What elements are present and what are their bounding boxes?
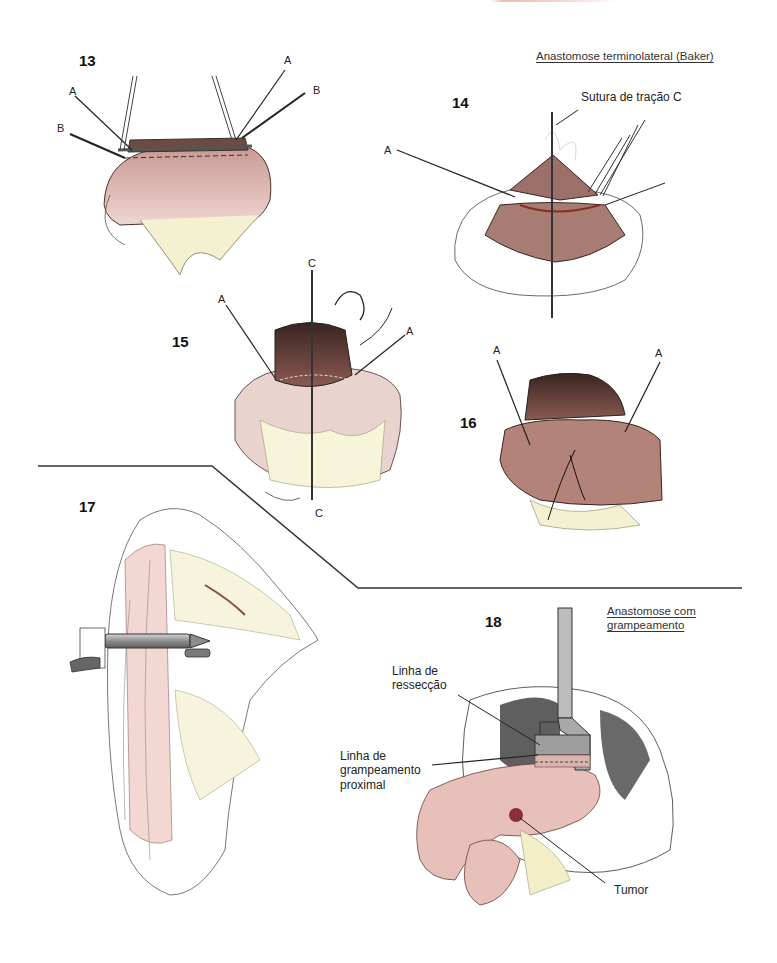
fig13-label-b-left: B [57, 123, 64, 134]
figure-number-13: 13 [79, 52, 96, 69]
figure-14-art [397, 110, 665, 318]
fig13-label-a-right: A [284, 55, 291, 66]
fig18-staple-line1: Linha de [340, 749, 421, 763]
figure-18-art [417, 608, 674, 905]
figure-15-art [226, 270, 405, 500]
fig15-label-c-bottom: C [315, 508, 323, 519]
fig18-callout-resection-line: Linha de ressecção [392, 664, 447, 693]
fig15-label-c-top: C [308, 258, 316, 269]
figure-number-14: 14 [452, 94, 469, 111]
section-title-stapled-line1: Anastomose com [607, 604, 696, 618]
section-title-baker: Anastomose terminolateral (Baker) [536, 49, 714, 63]
fig14-label-a: A [384, 145, 391, 156]
fig18-callout-tumor: Tumor [614, 883, 648, 897]
figure-17-art [70, 509, 318, 895]
section-title-stapled: Anastomose com grampeamento [607, 604, 696, 633]
figure-number-17: 17 [79, 498, 96, 515]
fig15-label-a-left: A [218, 294, 225, 305]
figure-number-16: 16 [460, 414, 477, 431]
figure-number-15: 15 [172, 333, 189, 350]
fig14-callout-traction-suture: Sutura de tração C [581, 90, 682, 104]
fig18-resection-line2: ressecção [392, 678, 447, 692]
fig16-label-a-right: A [655, 348, 662, 359]
figure-13-art [70, 70, 305, 275]
fig18-staple-line3: proximal [340, 778, 421, 792]
fig15-label-a-right: A [406, 326, 413, 337]
figure-16-art [497, 360, 662, 530]
fig18-staple-line2: grampeamento [340, 763, 421, 777]
section-title-stapled-line2: grampeamento [607, 618, 696, 632]
figure-number-18: 18 [485, 613, 502, 630]
fig13-label-b-right: B [313, 85, 320, 96]
fig13-label-a-left: A [69, 86, 76, 97]
fig18-callout-proximal-staple-line: Linha de grampeamento proximal [340, 749, 421, 792]
fig18-resection-line1: Linha de [392, 664, 447, 678]
fig16-label-a-left: A [493, 345, 500, 356]
